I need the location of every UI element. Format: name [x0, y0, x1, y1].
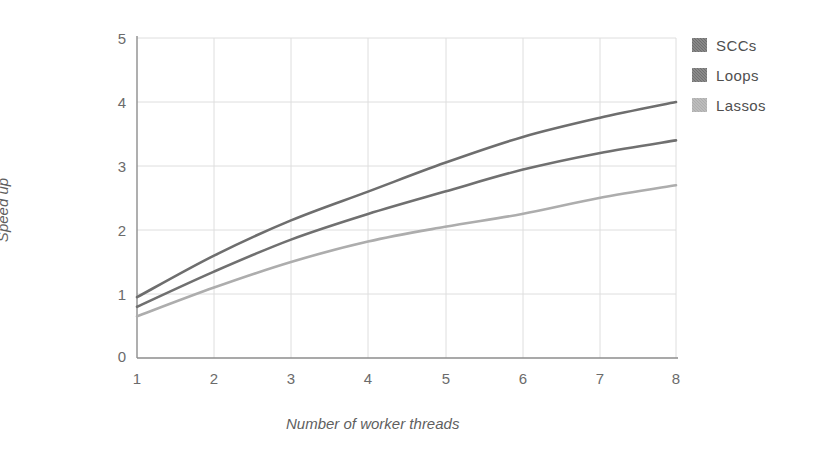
- legend-label-sccs: SCCs: [716, 37, 757, 54]
- x-tick-5: 5: [433, 371, 459, 386]
- legend-item-lassos: Lassos: [692, 90, 810, 120]
- x-tick-4: 4: [355, 371, 381, 386]
- x-tick-3: 3: [278, 371, 304, 386]
- y-axis-title: Speed up: [0, 150, 11, 270]
- legend-swatch-lassos: [692, 98, 707, 112]
- chart-figure: 5 4 3 2 1 0 1 2 3 4 5 6 7 8 Speed up Num…: [0, 0, 814, 465]
- y-tick-4: 4: [100, 95, 126, 110]
- x-tick-1: 1: [124, 371, 150, 386]
- x-tick-6: 6: [510, 371, 536, 386]
- y-tick-0: 0: [100, 349, 126, 364]
- grid-vertical: [214, 38, 676, 358]
- legend-item-sccs: SCCs: [692, 30, 810, 60]
- legend-label-loops: Loops: [716, 67, 759, 84]
- y-tick-5: 5: [100, 31, 126, 46]
- chart-legend: SCCs Loops Lassos: [692, 30, 810, 120]
- legend-swatch-loops: [692, 68, 707, 82]
- axis-lines: [137, 36, 678, 358]
- grid-horizontal: [137, 38, 676, 294]
- y-tick-3: 3: [100, 159, 126, 174]
- series-line-loops: [137, 140, 676, 306]
- legend-item-loops: Loops: [692, 60, 810, 90]
- legend-swatch-sccs: [692, 38, 707, 52]
- y-tick-1: 1: [100, 287, 126, 302]
- series-curves: [137, 102, 676, 316]
- y-tick-2: 2: [100, 223, 126, 238]
- x-axis-title: Number of worker threads: [286, 415, 459, 432]
- legend-label-lassos: Lassos: [716, 97, 766, 114]
- x-tick-7: 7: [587, 371, 613, 386]
- x-tick-2: 2: [201, 371, 227, 386]
- series-line-lassos: [137, 185, 676, 316]
- x-tick-8: 8: [663, 371, 689, 386]
